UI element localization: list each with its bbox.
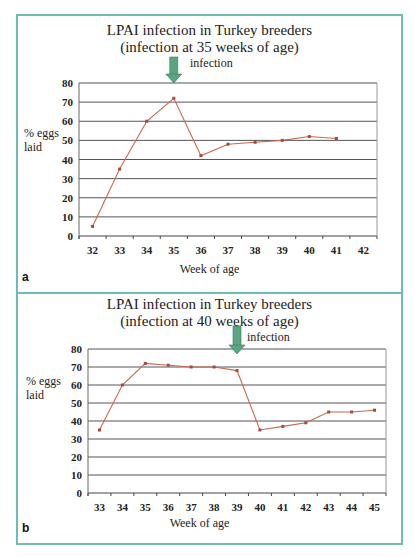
y-tick-label: 20: [71, 451, 83, 463]
data-line: [93, 98, 337, 226]
data-point: [304, 421, 307, 424]
x-axis-label: Week of age: [18, 262, 401, 277]
x-tick-label: 40: [254, 501, 266, 513]
data-point: [308, 135, 311, 138]
data-point: [254, 141, 257, 144]
y-tick-label: 20: [62, 192, 74, 204]
plot-area: 010203040506070803233343536373839404142: [18, 16, 401, 288]
y-tick-label: 10: [71, 469, 83, 481]
x-tick-label: 35: [168, 244, 180, 256]
x-tick-label: 32: [87, 244, 99, 256]
x-tick-label: 34: [117, 501, 129, 513]
y-tick-label: 60: [71, 379, 83, 391]
plot-area: 0102030405060708033343536373839404142434…: [18, 292, 401, 543]
x-tick-label: 34: [141, 244, 153, 256]
y-tick-label: 0: [68, 230, 74, 242]
y-tick-label: 30: [71, 433, 83, 445]
x-tick-label: 36: [195, 244, 207, 256]
x-tick-label: 37: [223, 244, 235, 256]
data-point: [145, 120, 148, 123]
data-point: [350, 411, 353, 414]
data-point: [190, 366, 193, 369]
x-tick-label: 42: [300, 501, 312, 513]
x-tick-label: 40: [304, 244, 316, 256]
x-tick-label: 41: [331, 244, 342, 256]
x-tick-label: 43: [323, 501, 335, 513]
data-point: [199, 154, 202, 157]
y-tick-label: 50: [71, 397, 83, 409]
panel-a: LPAI infection in Turkey breeders (infec…: [18, 16, 401, 294]
y-tick-label: 70: [71, 361, 83, 373]
x-tick-label: 41: [277, 501, 288, 513]
data-point: [213, 366, 216, 369]
infection-arrow-icon: [229, 326, 245, 354]
y-tick-label: 0: [77, 487, 83, 499]
data-point: [91, 225, 94, 228]
infection-arrow-icon: [166, 57, 182, 83]
x-tick-label: 33: [94, 501, 106, 513]
panel-letter: a: [22, 270, 29, 284]
y-tick-label: 40: [71, 415, 83, 427]
data-point: [335, 137, 338, 140]
x-tick-label: 36: [163, 501, 175, 513]
y-tick-label: 80: [71, 343, 83, 355]
y-tick-label: 50: [62, 134, 74, 146]
x-tick-label: 45: [369, 501, 381, 513]
panel-b: LPAI infection in Turkey breeders (infec…: [18, 292, 401, 543]
x-axis-label: Week of age: [8, 516, 391, 531]
x-tick-label: 44: [346, 501, 358, 513]
data-point: [98, 429, 101, 432]
y-tick-label: 60: [62, 115, 74, 127]
panel-letter: b: [22, 521, 29, 535]
data-point: [236, 369, 239, 372]
x-tick-label: 39: [232, 501, 244, 513]
figure: LPAI infection in Turkey breeders (infec…: [16, 14, 403, 545]
y-tick-label: 10: [62, 211, 74, 223]
x-tick-label: 39: [277, 244, 289, 256]
data-point: [227, 143, 230, 146]
y-tick-label: 70: [62, 96, 74, 108]
data-point: [121, 384, 124, 387]
data-point: [167, 364, 170, 367]
x-tick-label: 38: [209, 501, 221, 513]
x-tick-label: 35: [140, 501, 152, 513]
y-tick-label: 80: [62, 77, 74, 89]
x-tick-label: 42: [358, 244, 370, 256]
y-tick-label: 30: [62, 173, 74, 185]
x-tick-label: 38: [250, 244, 262, 256]
x-tick-label: 33: [114, 244, 126, 256]
x-tick-label: 37: [186, 501, 198, 513]
y-tick-label: 40: [62, 154, 74, 166]
data-point: [373, 409, 376, 412]
data-point: [118, 168, 121, 171]
data-point: [281, 139, 284, 142]
data-line: [99, 363, 374, 430]
data-point: [172, 97, 175, 100]
data-point: [144, 362, 147, 365]
data-point: [281, 425, 284, 428]
data-point: [327, 411, 330, 414]
data-point: [258, 429, 261, 432]
